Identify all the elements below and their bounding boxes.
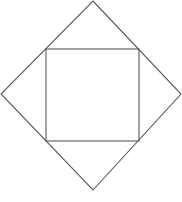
diagram-canvas	[0, 0, 182, 202]
inner-square	[46, 49, 139, 141]
outer-diamond	[1, 1, 181, 190]
